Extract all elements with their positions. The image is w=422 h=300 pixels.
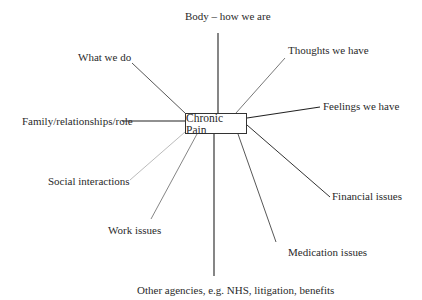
node-thoughts: Thoughts we have: [288, 45, 369, 56]
connector-thoughts: [236, 58, 285, 113]
node-medication: Medication issues: [288, 247, 367, 258]
connector-social: [130, 132, 185, 180]
connector-financial: [247, 125, 330, 197]
node-other-agencies: Other agencies, e.g. NHS, litigation, be…: [137, 285, 334, 296]
center-node-label: Chronic Pain: [186, 112, 246, 136]
center-node-chronic-pain: Chronic Pain: [185, 113, 247, 134]
node-feelings: Feelings we have: [323, 101, 399, 112]
node-family: Family/relationships/role: [22, 116, 133, 127]
connector-medication: [238, 134, 276, 242]
node-body: Body – how we are: [185, 11, 271, 22]
node-work: Work issues: [108, 225, 161, 236]
node-social: Social interactions: [48, 176, 130, 187]
node-financial: Financial issues: [332, 191, 402, 202]
node-what-we-do: What we do: [78, 52, 131, 63]
connector-what-we-do: [132, 63, 185, 113]
connector-feelings: [247, 107, 320, 118]
connector-work: [151, 134, 197, 219]
